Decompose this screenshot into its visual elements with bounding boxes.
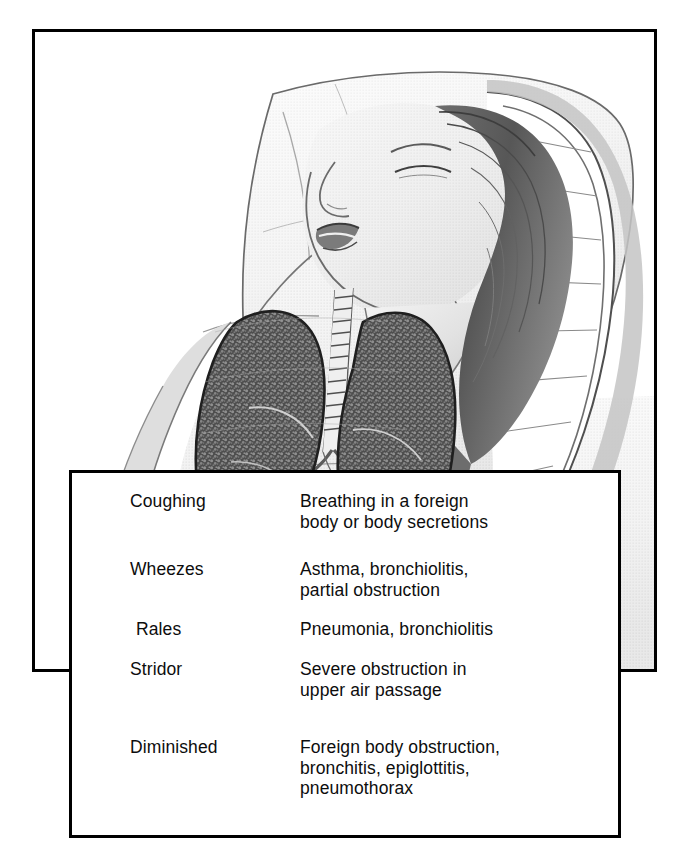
page-root: CoughingBreathing in a foreign body or b… (0, 0, 684, 860)
cause-text: Pneumonia, bronchiolitis (300, 619, 493, 640)
sign-label: Wheezes (130, 559, 204, 579)
cause-text: Foreign body obstruction, bronchitis, ep… (300, 737, 500, 799)
signs-table: CoughingBreathing in a foreign body or b… (69, 470, 621, 838)
cause-text: Severe obstruction in upper air passage (300, 659, 467, 700)
sign-label: Rales (136, 619, 181, 639)
cause-text: Asthma, bronchiolitis, partial obstructi… (300, 559, 469, 600)
cause-text: Breathing in a foreign body or body secr… (300, 491, 488, 532)
sign-label: Coughing (130, 491, 206, 511)
open-mouth (316, 224, 359, 250)
sign-label: Diminished (130, 737, 218, 757)
sign-label: Stridor (130, 659, 182, 679)
signs-table-body: CoughingBreathing in a foreign body or b… (72, 473, 618, 835)
